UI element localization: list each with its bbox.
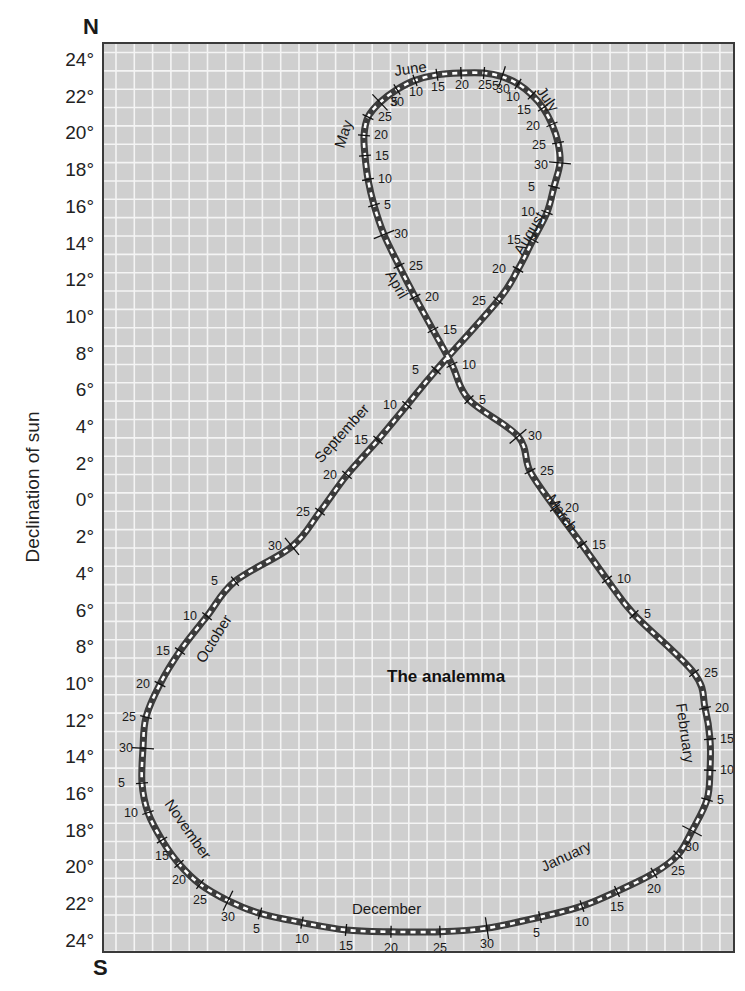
date-label: 15 bbox=[720, 732, 734, 746]
analemma-chart: 5101520253051015202551015202530510152025… bbox=[104, 44, 735, 953]
date-label: 25 bbox=[532, 138, 546, 152]
date-label: 20 bbox=[374, 128, 388, 142]
date-label: 25 bbox=[409, 259, 423, 273]
date-label: 25 bbox=[704, 666, 718, 680]
north-label: N bbox=[83, 14, 99, 40]
y-tick-label: 4° bbox=[16, 564, 94, 584]
date-label: 20 bbox=[492, 262, 506, 276]
date-label: 10 bbox=[575, 915, 589, 929]
date-label: 20 bbox=[455, 78, 469, 92]
date-label: 25 bbox=[472, 294, 486, 308]
date-label: 30 bbox=[394, 227, 408, 241]
y-tick-label: 10° bbox=[16, 674, 94, 694]
date-label: 5 bbox=[479, 393, 486, 407]
date-label: 5 bbox=[528, 180, 535, 194]
date-label: 15 bbox=[517, 103, 531, 117]
y-tick-label: 6° bbox=[16, 380, 94, 400]
date-label: 5 bbox=[391, 95, 398, 109]
chart-title: The analemma bbox=[387, 667, 506, 686]
grid-lines bbox=[104, 44, 735, 953]
date-label: 20 bbox=[715, 701, 729, 715]
date-label: 10 bbox=[720, 763, 734, 777]
month-label: February bbox=[673, 702, 698, 764]
y-tick-label: 22° bbox=[16, 87, 94, 107]
date-label: 15 bbox=[156, 644, 170, 658]
y-tick-label: 24° bbox=[16, 50, 94, 70]
y-tick-label: 14° bbox=[16, 234, 94, 254]
date-label: 25 bbox=[671, 864, 685, 878]
date-label: 5 bbox=[492, 79, 499, 93]
date-label: 5 bbox=[211, 574, 218, 588]
date-label: 15 bbox=[354, 433, 368, 447]
date-label: 25 bbox=[193, 893, 207, 907]
analemma-curve bbox=[142, 73, 711, 932]
date-label: 20 bbox=[425, 290, 439, 304]
date-label: 10 bbox=[124, 806, 138, 820]
date-label: 25 bbox=[378, 110, 392, 124]
date-label: 30 bbox=[534, 158, 548, 172]
date-label: 10 bbox=[409, 85, 423, 99]
y-tick-label: 22° bbox=[16, 894, 94, 914]
date-label: 15 bbox=[339, 939, 353, 953]
date-label: 10 bbox=[295, 932, 309, 946]
y-tick-label: 16° bbox=[16, 197, 94, 217]
date-label: 20 bbox=[136, 677, 150, 691]
date-label: 25 bbox=[122, 710, 136, 724]
date-label: 25 bbox=[540, 464, 554, 478]
date-label: 20 bbox=[172, 873, 186, 887]
date-label: 10 bbox=[378, 172, 392, 186]
date-label: 5 bbox=[533, 926, 540, 940]
date-label: 15 bbox=[375, 149, 389, 163]
month-labels: MayJuneJulyAugustAprilSeptemberMarchOcto… bbox=[162, 58, 699, 917]
date-label: 15 bbox=[592, 538, 606, 552]
plot-area: 5101520253051015202551015202530510152025… bbox=[102, 42, 735, 953]
date-label: 10 bbox=[383, 398, 397, 412]
month-label: December bbox=[352, 900, 421, 917]
date-label: 20 bbox=[647, 882, 661, 896]
date-label: 20 bbox=[526, 119, 540, 133]
date-label: 5 bbox=[118, 776, 125, 790]
y-tick-label: 4° bbox=[16, 417, 94, 437]
y-tick-label: 16° bbox=[16, 784, 94, 804]
date-label: 10 bbox=[617, 572, 631, 586]
date-label: 5 bbox=[644, 607, 651, 621]
date-label: 15 bbox=[610, 900, 624, 914]
date-label: 25 bbox=[296, 505, 310, 519]
date-label: 15 bbox=[155, 849, 169, 863]
y-tick-label: 2° bbox=[16, 454, 94, 474]
date-label: 15 bbox=[443, 323, 457, 337]
date-label: 10 bbox=[462, 358, 476, 372]
date-label: 20 bbox=[323, 468, 337, 482]
y-tick-label: 2° bbox=[16, 527, 94, 547]
date-label: 30 bbox=[480, 937, 494, 951]
y-tick-label: 18° bbox=[16, 160, 94, 180]
date-label: 30 bbox=[528, 429, 542, 443]
date-label: 5 bbox=[412, 363, 419, 377]
date-labels: 5101520253051015202551015202530510152025… bbox=[118, 78, 734, 953]
date-label: 15 bbox=[431, 80, 445, 94]
date-label: 5 bbox=[384, 198, 391, 212]
y-tick-label: 6° bbox=[16, 601, 94, 621]
y-tick-label: 10° bbox=[16, 307, 94, 327]
y-tick-label: 12° bbox=[16, 270, 94, 290]
y-tick-label: 12° bbox=[16, 711, 94, 731]
y-tick-label: 20° bbox=[16, 857, 94, 877]
date-label: 5 bbox=[253, 922, 260, 936]
y-tick-label: 8° bbox=[16, 344, 94, 364]
date-label: 30 bbox=[119, 741, 133, 755]
y-tick-label: 8° bbox=[16, 637, 94, 657]
date-label: 30 bbox=[685, 840, 699, 854]
y-tick-label: 18° bbox=[16, 821, 94, 841]
y-tick-label: 14° bbox=[16, 747, 94, 767]
date-label: 30 bbox=[268, 539, 282, 553]
date-label: 5 bbox=[717, 793, 724, 807]
date-label: 30 bbox=[221, 910, 235, 924]
y-tick-label: 24° bbox=[16, 931, 94, 951]
month-label: July bbox=[534, 83, 564, 115]
y-tick-label: 0° bbox=[16, 490, 94, 510]
south-label: S bbox=[93, 955, 108, 981]
date-label: 20 bbox=[384, 941, 398, 953]
date-label: 10 bbox=[183, 609, 197, 623]
date-label: 25 bbox=[433, 941, 447, 953]
y-tick-label: 20° bbox=[16, 123, 94, 143]
